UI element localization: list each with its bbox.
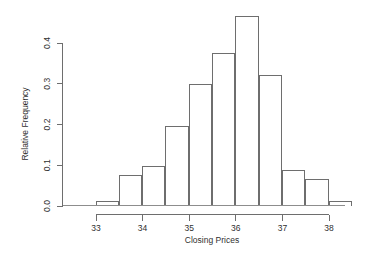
x-tick-label: 35 <box>184 223 194 233</box>
histogram-bar <box>143 166 165 206</box>
histogram-bar <box>213 54 235 206</box>
y-tick-label: 0.2 <box>42 118 52 130</box>
x-tick-labels: 333435363738 <box>91 223 334 233</box>
histogram-bar <box>306 179 328 206</box>
x-tick-label: 36 <box>231 223 241 233</box>
y-tick-label: 0.0 <box>42 200 52 212</box>
y-tick-labels: 0.00.10.20.30.4 <box>42 37 52 212</box>
y-tick-label: 0.4 <box>42 37 52 49</box>
x-tick-label: 33 <box>91 223 101 233</box>
histogram-bar <box>166 127 188 206</box>
x-axis: 333435363738 Closing Prices <box>91 215 334 246</box>
histogram-bar <box>282 170 304 206</box>
y-axis: 0.00.10.20.30.4 Relative Frequency <box>20 37 63 212</box>
histogram-bar <box>259 76 281 206</box>
x-axis-title: Closing Prices <box>185 235 239 245</box>
bars <box>96 17 351 206</box>
x-tick-label: 38 <box>324 223 334 233</box>
x-tick-label: 34 <box>138 223 148 233</box>
histogram-bar <box>119 175 141 206</box>
y-tick-label: 0.3 <box>42 78 52 90</box>
y-axis-title: Relative Frequency <box>20 87 30 161</box>
histogram-plot: 0.00.10.20.30.4 Relative Frequency 33343… <box>0 0 374 263</box>
x-tick-marks <box>96 215 329 221</box>
x-tick-label: 37 <box>278 223 288 233</box>
histogram-bar <box>236 17 258 206</box>
y-tick-label: 0.1 <box>42 159 52 171</box>
y-tick-marks <box>57 43 63 206</box>
histogram-bar <box>189 84 211 206</box>
